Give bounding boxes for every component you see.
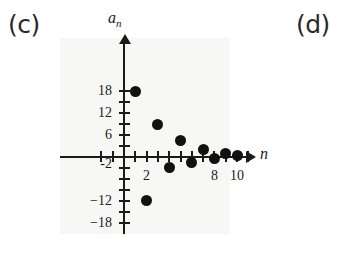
data-point (164, 162, 175, 173)
y-axis-tick-label: 12 (98, 106, 112, 120)
y-axis-tick-label: 6 (105, 128, 112, 142)
x-axis-tick (180, 151, 182, 162)
x-axis-tick (146, 151, 148, 162)
y-axis-tick (119, 145, 130, 147)
y-axis-tick (119, 211, 130, 213)
y-axis-tick (119, 134, 130, 136)
data-point (141, 195, 152, 206)
y-axis-tick (119, 189, 130, 191)
x-axis-tick-label: 8 (211, 169, 218, 183)
x-axis-tick-label: 2 (143, 169, 150, 183)
x-axis-tick (168, 151, 170, 162)
panel-label-c: (c) (8, 12, 40, 37)
data-point (130, 86, 141, 97)
x-axis-tick (247, 151, 249, 162)
y-axis-label: an (108, 10, 122, 29)
y-axis-tick (119, 101, 130, 103)
x-axis-tick (157, 151, 159, 162)
y-axis-tick (119, 90, 130, 92)
y-axis-tick-label: −12 (90, 194, 112, 208)
x-axis-tick (134, 151, 136, 162)
y-axis-tick (119, 112, 130, 114)
y-axis-tick-label: -2 (100, 157, 112, 171)
y-axis-tick-label: −18 (90, 216, 112, 230)
figure-root: (c) (d) n an 2810 18126-2−12−18 (0, 0, 339, 276)
data-point (186, 157, 197, 168)
data-point (220, 148, 231, 159)
scatter-plot-panel: n an 2810 18126-2−12−18 (60, 38, 230, 234)
y-axis-tick (119, 123, 130, 125)
y-axis-tick (119, 178, 130, 180)
y-axis-tick (119, 167, 130, 169)
x-axis-label: n (260, 146, 268, 162)
y-axis-tick (119, 200, 130, 202)
panel-label-d: (d) (296, 12, 330, 37)
y-axis-tick-label: 18 (98, 84, 112, 98)
y-axis-label-base: a (108, 9, 116, 26)
y-axis-line (123, 42, 125, 234)
data-point (175, 135, 186, 146)
y-axis-tick (119, 222, 130, 224)
y-axis-arrow-icon (119, 34, 131, 44)
data-point (232, 150, 243, 161)
x-axis-tick-label: 10 (230, 169, 244, 183)
data-point (209, 153, 220, 164)
data-point (198, 144, 209, 155)
y-axis-label-subscript: n (116, 17, 122, 29)
data-point (152, 119, 163, 130)
